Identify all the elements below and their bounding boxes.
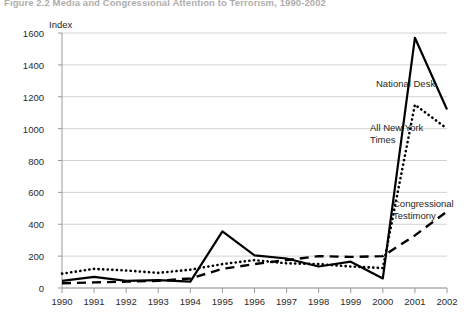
x-tick-label: 1990	[51, 296, 72, 307]
line-chart-plot	[0, 0, 464, 319]
x-tick-label: 2002	[436, 296, 457, 307]
y-axis-tick-labels: 16001400120010008006004002000	[0, 0, 44, 319]
y-tick-label: 400	[0, 219, 44, 230]
x-tick-label: 1991	[84, 296, 105, 307]
x-tick-label: 1999	[340, 296, 361, 307]
series-label-congressional-testimony: Congressional Testimony	[393, 198, 463, 222]
series-line-national-desk	[62, 38, 447, 282]
y-tick-label: 0	[0, 283, 44, 294]
series-label-all-new-york-times: All New York Times	[370, 122, 434, 146]
x-tick-label: 1992	[116, 296, 137, 307]
y-tick-label: 1600	[0, 28, 44, 39]
y-tick-label: 1400	[0, 59, 44, 70]
x-tick-label: 1993	[148, 296, 169, 307]
x-tick-label: 2001	[404, 296, 425, 307]
x-tick-label: 2000	[372, 296, 393, 307]
x-tick-label: 1998	[308, 296, 329, 307]
x-tick-label: 1996	[244, 296, 265, 307]
y-tick-label: 600	[0, 187, 44, 198]
series-label-national-desk: National Desk	[376, 78, 435, 90]
y-tick-label: 200	[0, 251, 44, 262]
x-tick-label: 1995	[212, 296, 233, 307]
y-tick-label: 800	[0, 155, 44, 166]
y-tick-label: 1000	[0, 123, 44, 134]
y-tick-label: 1200	[0, 91, 44, 102]
figure-container: Figure 2.2 Media and Congressional Atten…	[0, 0, 464, 319]
x-tick-label: 1994	[180, 296, 201, 307]
x-tick-label: 1997	[276, 296, 297, 307]
